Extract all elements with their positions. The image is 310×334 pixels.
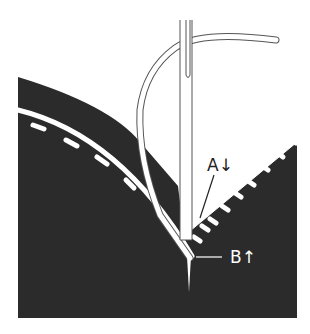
diagram-canvas: A↓ B↑ <box>0 0 310 334</box>
label-a: A↓ <box>207 157 233 174</box>
fabric-piece <box>18 77 297 318</box>
diagram-svg <box>0 0 310 334</box>
label-a-pointer <box>200 175 214 218</box>
label-b: B↑ <box>230 249 256 266</box>
